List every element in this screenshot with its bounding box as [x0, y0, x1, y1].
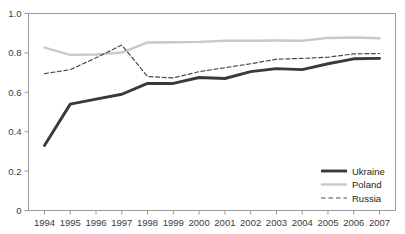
x-tick-label: 2001 [214, 217, 235, 228]
y-tick-label: 1.0 [8, 8, 21, 19]
legend-label-ukraine: Ukraine [352, 166, 385, 177]
x-tick-label: 2006 [343, 217, 364, 228]
y-tick-label: 0.4 [8, 126, 21, 137]
x-tick-label: 2004 [292, 217, 313, 228]
x-tick-label: 2005 [317, 217, 338, 228]
legend-label-poland: Poland [352, 179, 382, 190]
x-tick-label: 1999 [163, 217, 184, 228]
x-tick-label: 2007 [369, 217, 390, 228]
x-tick-label: 2000 [189, 217, 210, 228]
x-tick-label: 1997 [111, 217, 132, 228]
chart-legend: UkrainePolandRussia [321, 166, 385, 204]
x-tick-label: 1994 [34, 217, 55, 228]
chart-container: 00.20.40.60.81.0 19941995199619971998199… [0, 0, 405, 234]
legend-label-russia: Russia [352, 193, 382, 204]
y-tick-label: 0.2 [8, 166, 21, 177]
x-tick-label: 1998 [137, 217, 158, 228]
x-tick-label: 1995 [60, 217, 81, 228]
y-tick-label: 0.6 [8, 87, 21, 98]
line-chart: 00.20.40.60.81.0 19941995199619971998199… [0, 0, 405, 234]
y-tick-label: 0.8 [8, 47, 21, 58]
x-tick-label: 1996 [85, 217, 106, 228]
x-tick-label: 2003 [266, 217, 287, 228]
x-tick-label: 2002 [240, 217, 261, 228]
y-tick-label: 0 [16, 205, 21, 216]
